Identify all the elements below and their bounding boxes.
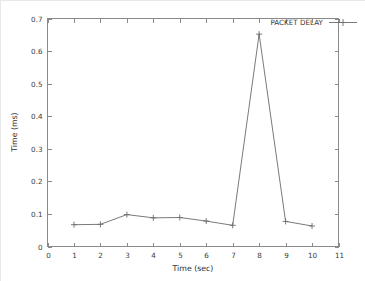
chart-figure: 00.10.20.30.40.50.60.7 01234567891011 Ti… [0,0,365,281]
x-tick-label: 9 [284,251,289,260]
x-tick-label: 11 [335,251,344,260]
x-tick-label: 10 [308,251,318,260]
x-tick-label: 0 [46,251,51,260]
x-tick-label: 4 [151,251,156,260]
y-tick-label: 0.3 [31,145,42,154]
x-tick-label: 1 [72,251,77,260]
y-tick-label: 0.4 [31,112,43,121]
y-tick-label: 0.7 [31,15,42,24]
x-axis-title: Time (sec) [172,264,214,273]
y-tick-label: 0.5 [31,80,42,89]
chart-background [1,1,365,281]
packet-delay-line-chart: 00.10.20.30.40.50.60.7 01234567891011 Ti… [1,1,365,281]
y-tick-label: 0.1 [31,210,42,219]
y-axis-title: Time (ms) [10,112,19,152]
x-tick-label: 8 [257,251,262,260]
x-tick-label: 2 [98,251,103,260]
y-tick-label: 0 [38,243,43,252]
x-tick-label: 3 [125,251,130,260]
legend-label-packet-delay: PACKET DELAY [270,18,323,27]
x-tick-label: 5 [178,251,183,260]
y-tick-label: 0.6 [31,47,43,56]
x-tick-label: 6 [204,251,209,260]
y-tick-label: 0.2 [31,177,42,186]
x-tick-label: 7 [231,251,236,260]
